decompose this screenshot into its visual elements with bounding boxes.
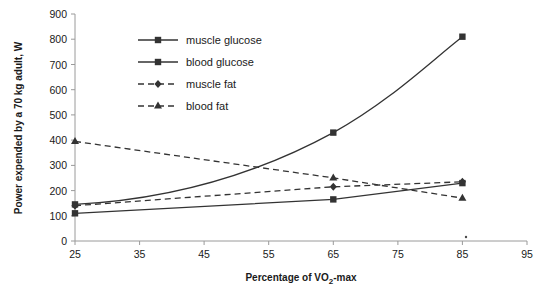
chart-container: 0 100 200 300 400 500 600 700 800 900 25…	[0, 0, 549, 291]
y-tick-labels: 0 100 200 300 400 500 600 700 800 900	[49, 8, 67, 247]
svg-text:Percentage of VO2-max: Percentage of VO2-max	[245, 272, 357, 286]
legend-label-blood-glucose: blood glucose	[186, 56, 254, 68]
legend-label-muscle-glucose: muscle glucose	[186, 34, 262, 46]
y-tick-label: 200	[49, 185, 67, 197]
line-chart: 0 100 200 300 400 500 600 700 800 900 25…	[0, 0, 549, 291]
y-tick-label: 800	[49, 33, 67, 45]
legend-label-blood-fat: blood fat	[186, 100, 228, 112]
y-tick-label: 600	[49, 84, 67, 96]
stray-mark	[465, 236, 467, 238]
y-axis-title: Power expended by a 70 kg adult, W	[13, 41, 24, 214]
x-tick-label: 95	[521, 248, 533, 260]
y-tick-label: 300	[49, 159, 67, 171]
series-muscle-glucose	[72, 34, 466, 208]
y-tick-label: 700	[49, 59, 67, 71]
y-tick-label: 400	[49, 134, 67, 146]
chart-legend: muscle glucose blood glucose muscle fat …	[138, 34, 262, 112]
legend-label-muscle-fat: muscle fat	[186, 78, 236, 90]
y-tick-label: 900	[49, 8, 67, 20]
series-muscle-fat	[71, 178, 466, 210]
x-tick-label: 65	[327, 248, 339, 260]
x-axis-title: Percentage of VO2-max	[245, 272, 357, 286]
series-blood-glucose	[72, 180, 466, 217]
x-tick-label: 85	[457, 248, 469, 260]
x-tick-labels: 25 35 45 55 65 75 85 95	[69, 248, 533, 260]
x-axis-title-pre: Percentage of VO	[245, 272, 329, 283]
plot-axes	[75, 14, 527, 241]
x-tick-label: 55	[263, 248, 275, 260]
x-axis-ticks	[75, 241, 527, 245]
x-tick-label: 35	[134, 248, 146, 260]
y-tick-label: 100	[49, 210, 67, 222]
y-tick-label: 0	[61, 235, 67, 247]
y-tick-label: 500	[49, 109, 67, 121]
x-tick-label: 45	[198, 248, 210, 260]
x-tick-label: 75	[392, 248, 404, 260]
x-tick-label: 25	[69, 248, 81, 260]
x-axis-title-post: -max	[333, 272, 357, 283]
